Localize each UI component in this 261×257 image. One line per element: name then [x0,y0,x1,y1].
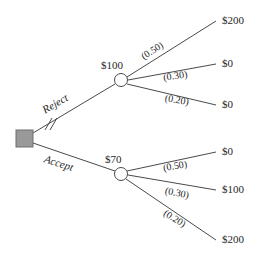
payoff-accept-1: $0 [222,146,233,157]
chance-node-reject[interactable] [115,74,128,87]
payoff-reject-1: $200 [222,15,244,26]
decision-tree-diagram: Reject Accept $100 $70 (0.50) (0.30) (0.… [0,0,261,257]
node-value-accept: $70 [105,154,122,165]
payoff-accept-3: $200 [222,234,244,245]
payoff-accept-2: $100 [222,184,244,195]
node-value-reject: $100 [101,60,123,71]
decision-node[interactable] [16,130,33,147]
payoff-reject-2: $0 [222,58,233,69]
edge-reject-outcome-1 [127,21,216,77]
payoff-reject-3: $0 [222,99,233,110]
tree-graphics [0,0,261,257]
chance-node-accept[interactable] [115,168,128,181]
